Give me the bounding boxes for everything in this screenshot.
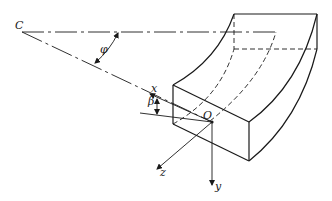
curved-beam-diagram: C φ β O x y z	[0, 0, 332, 201]
label-phi: φ	[100, 43, 108, 56]
label-center-c: C	[15, 19, 24, 32]
label-axis-y: y	[214, 180, 222, 193]
top-left-curved-edge	[173, 14, 234, 85]
radial-center-line	[22, 32, 210, 121]
front-bottom-edge	[173, 124, 249, 161]
label-beta: β	[147, 95, 154, 108]
curved-beam	[173, 14, 317, 161]
label-origin-o: O	[203, 109, 212, 122]
bottom-right-curved-edge	[249, 49, 317, 161]
label-axis-x: x	[151, 82, 158, 95]
label-axis-z: z	[159, 166, 166, 179]
